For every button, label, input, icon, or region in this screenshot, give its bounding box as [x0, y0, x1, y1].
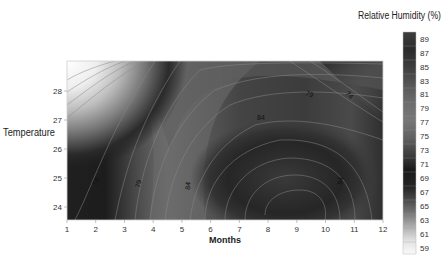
- y-tick-label: 27: [53, 116, 62, 125]
- contour-label: 84: [257, 114, 265, 121]
- x-tick-label: 2: [93, 225, 98, 234]
- contour-label: 79: [134, 179, 142, 188]
- colorbar-label: 59: [420, 244, 429, 253]
- y-tick-label: 28: [53, 87, 62, 96]
- colorbar-label: 81: [420, 90, 429, 99]
- colorbar-label: 73: [420, 146, 429, 155]
- colorbar-label: 71: [420, 160, 429, 169]
- y-axis-title: Temperature: [3, 127, 55, 138]
- plot-area: 74 79 84 84 79 74 84: [67, 61, 383, 238]
- y-tick-label: 25: [53, 174, 62, 183]
- colorbar-label: 61: [420, 230, 429, 239]
- contour-label: 84: [336, 176, 344, 185]
- x-tick-label: 1: [65, 225, 70, 234]
- x-tick-label: 5: [180, 225, 185, 234]
- x-tick-label: 10: [321, 225, 330, 234]
- x-tick-label: 3: [122, 225, 127, 234]
- colorbar-label: 77: [420, 118, 429, 127]
- contour-label: 84: [184, 182, 192, 190]
- colorbar-label: 65: [420, 202, 429, 211]
- colorbar-label: 67: [420, 188, 429, 197]
- x-tick-label: 9: [295, 225, 300, 234]
- colorbar-label: 89: [420, 35, 429, 44]
- x-tick-label: 7: [237, 225, 242, 234]
- contour-chart: 74 79 84 84 79 74 84 24 25 26 27 28 Temp…: [0, 0, 441, 261]
- x-tick-label: 6: [208, 225, 213, 234]
- x-tick-label: 4: [151, 225, 156, 234]
- x-tick-label: 8: [266, 225, 271, 234]
- colorbar-label: 85: [420, 63, 429, 72]
- colorbar-label: 63: [420, 216, 429, 225]
- x-tick-label: 11: [350, 225, 359, 234]
- x-axis-title: Months: [209, 235, 241, 245]
- colorbar-label: 69: [420, 174, 429, 183]
- colorbar-label: 79: [420, 104, 429, 113]
- colorbar-label: 87: [420, 49, 429, 58]
- y-tick-label: 24: [53, 203, 62, 212]
- x-axis: 1 2 3 4 5 6 7 8 9 10 11 12 Months: [65, 220, 388, 245]
- colorbar-title: Relative Humidity (%): [358, 10, 441, 21]
- y-tick-label: 26: [53, 145, 62, 154]
- colorbar-label: 83: [420, 77, 429, 86]
- x-tick-label: 12: [379, 225, 388, 234]
- colorbar-label: 75: [420, 132, 429, 141]
- y-axis: 24 25 26 27 28 Temperature: [3, 87, 67, 212]
